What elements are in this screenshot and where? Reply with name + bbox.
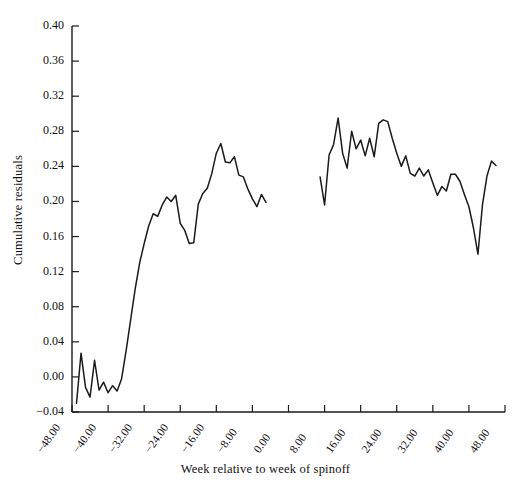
y-tick-label: 0.40 [24,18,64,33]
y-tick-label: 0.00 [24,369,64,384]
chart-plot-area [0,0,531,492]
y-tick-label: 0.16 [24,229,64,244]
tick-marks-group [72,26,505,412]
series-line-1 [320,118,496,254]
y-tick-label: 0.28 [24,123,64,138]
figure-container: Cumulative residuals −0.040.000.040.080.… [0,0,531,492]
y-tick-label: −0.04 [24,404,64,419]
series-line-0 [77,144,266,404]
y-tick-label: 0.32 [24,88,64,103]
y-tick-label: 0.12 [24,264,64,279]
axes-group [72,26,505,412]
y-tick-label: 0.20 [24,193,64,208]
y-tick-label: 0.04 [24,334,64,349]
data-series-group [77,118,496,403]
y-tick-label: 0.24 [24,158,64,173]
y-tick-label: 0.36 [24,53,64,68]
y-tick-label: 0.08 [24,299,64,314]
x-axis-title: Week relative to week of spinoff [0,462,531,477]
